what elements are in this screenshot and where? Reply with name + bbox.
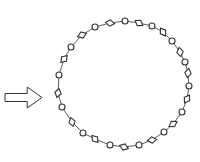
circle-node-icon xyxy=(122,18,128,24)
circle-node-icon xyxy=(149,23,155,29)
circle-node-icon xyxy=(179,109,185,115)
ring-diagram xyxy=(0,0,200,162)
arrow-pointer xyxy=(5,87,42,108)
diamond-node-icon xyxy=(54,88,62,98)
diamond-node-icon xyxy=(105,19,115,27)
circle-node-icon xyxy=(59,104,65,110)
circle-node-icon xyxy=(107,142,113,148)
diamond-node-icon xyxy=(119,142,130,151)
right-arrow-icon xyxy=(5,87,42,108)
circle-node-icon xyxy=(169,38,175,44)
ring-nodes xyxy=(54,18,192,152)
circle-node-icon xyxy=(92,24,98,30)
circle-node-icon xyxy=(161,129,167,135)
circle-node-icon xyxy=(68,44,74,50)
diamond-node-icon xyxy=(182,93,192,104)
diamond-node-icon xyxy=(59,53,70,64)
diamond-node-icon xyxy=(184,68,192,78)
diamond-node-icon xyxy=(77,30,88,39)
circle-node-icon xyxy=(182,59,188,65)
circle-node-icon xyxy=(80,130,86,136)
circle-node-icon xyxy=(56,72,62,78)
diamond-node-icon xyxy=(90,133,101,144)
diamond-node-icon xyxy=(68,117,77,128)
circle-node-icon xyxy=(186,83,192,89)
diamond-node-icon xyxy=(133,18,144,28)
circle-node-icon xyxy=(136,142,142,148)
